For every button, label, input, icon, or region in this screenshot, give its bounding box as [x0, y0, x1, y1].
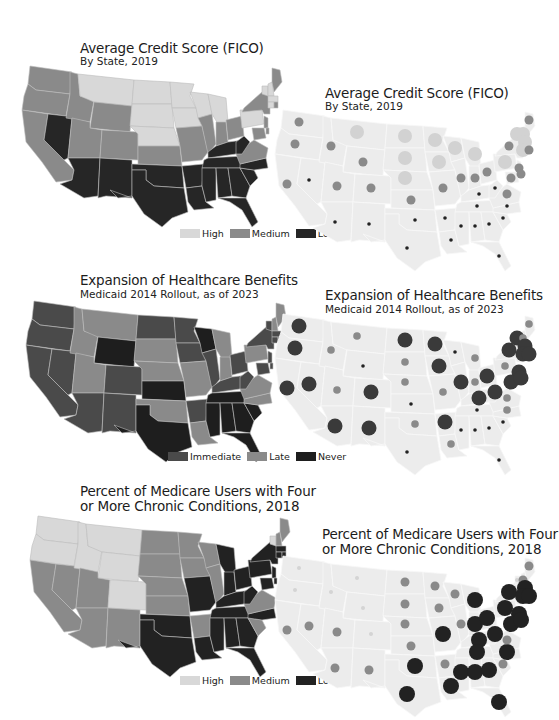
- state-nj: [264, 116, 268, 128]
- bubble-ri: [525, 146, 534, 155]
- bubble-sc: [501, 420, 505, 424]
- state-ks: [142, 381, 186, 401]
- bubble-or: [288, 341, 303, 356]
- bubble-mt: [353, 332, 361, 340]
- state-fl: [471, 446, 511, 475]
- bubble-ms: [459, 224, 463, 228]
- state-fl: [226, 648, 266, 677]
- bubble-de: [513, 612, 529, 628]
- bubble-wy: [361, 364, 365, 368]
- bubble-ok: [407, 658, 423, 674]
- bubble-nc: [499, 644, 515, 660]
- bubble-tx: [399, 686, 415, 702]
- fico-bubble-panel: Average Credit Score (FICO) By State, 20…: [270, 50, 559, 260]
- fico-choropleth-panel: Average Credit Score (FICO) By State, 20…: [0, 0, 280, 240]
- bubble-wa: [295, 118, 304, 127]
- bubble-al: [473, 224, 477, 228]
- bubble-md: [507, 174, 516, 183]
- bubble-sc: [501, 216, 505, 220]
- chart-title: Average Credit Score (FICO): [325, 86, 509, 100]
- state-nd: [140, 530, 180, 554]
- state-sd: [134, 339, 178, 363]
- bubble-ri: [522, 347, 537, 362]
- bubble-pa: [501, 362, 509, 370]
- bubble-co: [367, 184, 376, 193]
- bubble-mo: [439, 388, 447, 396]
- bubble-mi: [468, 147, 482, 161]
- state-co: [104, 365, 142, 395]
- bubble-ny: [505, 142, 514, 151]
- us-choropleth-map: [26, 297, 286, 462]
- bubble-oh: [483, 168, 492, 177]
- bubble-or: [291, 140, 300, 149]
- bubble-ms: [453, 664, 469, 680]
- bubble-ks: [409, 402, 413, 406]
- bubble-ar: [438, 415, 453, 430]
- bubble-la: [449, 238, 453, 242]
- bubble-wi: [453, 350, 457, 354]
- bubble-wi: [451, 590, 460, 599]
- state-nd: [132, 80, 172, 104]
- bubble-va: [503, 190, 512, 199]
- chart-title: Expansion of Healthcare Benefits: [80, 273, 298, 287]
- chart-title-line1: Percent of Medicare Users with Four: [322, 527, 558, 541]
- chart-title-line2: or More Chronic Conditions, 2018: [80, 499, 299, 513]
- us-bubble-map: [275, 106, 535, 271]
- bubble-wy: [361, 606, 365, 610]
- bubble-me: [525, 562, 534, 571]
- bubble-de: [517, 170, 526, 179]
- bubble-vt: [515, 578, 519, 582]
- chart-title: Expansion of Healthcare Benefits: [325, 288, 543, 302]
- bubble-ut: [333, 182, 342, 191]
- bubble-wv: [487, 626, 503, 642]
- bubble-ga: [481, 662, 497, 678]
- bubble-wi: [448, 141, 462, 155]
- bubble-ky: [477, 192, 481, 196]
- bubble-nv: [307, 178, 311, 182]
- state-nd: [136, 315, 176, 339]
- state-sd: [138, 554, 182, 578]
- us-bubble-map: [275, 552, 535, 717]
- state-wy: [98, 552, 140, 582]
- bubble-id: [327, 142, 336, 151]
- bubble-nd: [401, 578, 410, 587]
- bubble-sc: [499, 660, 508, 669]
- state-wy: [94, 337, 136, 367]
- bubble-ks: [407, 196, 416, 205]
- chart-title: Average Credit Score (FICO): [80, 41, 264, 55]
- bubble-ne: [401, 378, 409, 386]
- bubble-nm: [362, 421, 377, 436]
- bubble-ny: [501, 584, 517, 600]
- state-ks: [146, 596, 190, 616]
- bubble-oh: [480, 369, 495, 384]
- bubble-il: [457, 620, 466, 629]
- bubble-tn: [469, 644, 485, 660]
- bubble-ks: [407, 642, 416, 651]
- bubble-al: [473, 428, 477, 432]
- legend-item-immediate: Immediate: [168, 451, 241, 462]
- us-bubble-map: [275, 310, 535, 475]
- bubble-az: [333, 220, 337, 224]
- bubble-wa: [292, 319, 307, 334]
- bubble-il: [454, 375, 469, 390]
- bubble-pa: [497, 600, 513, 616]
- state-ks: [391, 394, 435, 414]
- state-wy: [90, 102, 132, 132]
- bubble-az: [331, 664, 340, 673]
- bubble-co: [369, 632, 373, 636]
- bubble-ri: [521, 588, 537, 604]
- bubble-id: [327, 346, 335, 354]
- bubble-ga: [487, 426, 491, 430]
- state-fl: [218, 198, 258, 227]
- bubble-nc: [503, 406, 511, 414]
- bubble-la: [447, 440, 455, 448]
- bubble-ca: [283, 180, 292, 189]
- bubble-mn: [428, 337, 443, 352]
- bubble-nm: [367, 222, 371, 226]
- bubble-de: [514, 371, 529, 386]
- bubble-id: [329, 590, 333, 594]
- legend-item-high: High: [180, 675, 224, 686]
- bubble-ne: [401, 620, 410, 629]
- medicare-choropleth-panel: Percent of Medicare Users with Four or M…: [0, 470, 290, 720]
- bubble-tx: [405, 450, 409, 454]
